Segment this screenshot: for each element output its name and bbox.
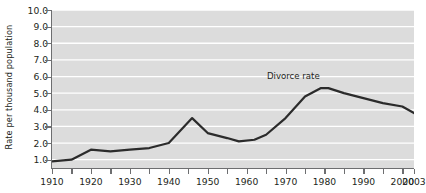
x-axis-minor-tick-mark — [188, 169, 189, 174]
series-line-divorce-rate — [52, 88, 414, 161]
y-axis-tick-label: 8.0 — [14, 39, 48, 48]
series-line-svg — [52, 10, 414, 168]
y-axis-tick-mark — [45, 126, 51, 127]
x-axis-tick-label: 1980 — [313, 177, 336, 187]
y-axis-tick-label: 6.0 — [14, 72, 48, 81]
x-axis-tick-mark — [52, 169, 53, 174]
x-axis-minor-tick-mark — [344, 169, 345, 174]
y-axis-tick-mark — [45, 77, 51, 78]
y-axis-tick-label: 7.0 — [14, 55, 48, 64]
x-axis-tick-mark — [208, 169, 209, 174]
x-axis-tick-mark — [286, 169, 287, 174]
y-axis-tick-label: 10.0 — [14, 6, 48, 15]
x-axis-tick-label: 2003 — [402, 177, 425, 187]
x-axis-tick-label: 1970 — [274, 177, 297, 187]
x-axis-minor-tick-mark — [149, 169, 150, 174]
x-axis-minor-tick-mark — [383, 169, 384, 174]
y-axis-tick-label: 2.0 — [14, 139, 48, 148]
x-axis-tick-label: 1930 — [118, 177, 141, 187]
x-axis-tick-label: 1940 — [157, 177, 180, 187]
y-axis-tick-mark — [45, 143, 51, 144]
plot-area — [52, 10, 414, 168]
x-axis-tick-mark — [402, 169, 403, 174]
x-axis-tick-mark — [169, 169, 170, 174]
x-axis-tick-label: 1920 — [79, 177, 102, 187]
x-axis-tick-label: 1950 — [196, 177, 219, 187]
y-axis-tick-label: 1.0 — [14, 155, 48, 164]
y-axis-tick-label: 3.0 — [14, 122, 48, 131]
x-axis-tick-mark — [91, 169, 92, 174]
x-axis-minor-tick-mark — [110, 169, 111, 174]
y-axis-tick-label: 5.0 — [14, 89, 48, 98]
x-axis-tick-mark — [363, 169, 364, 174]
y-axis-tick-mark — [45, 10, 51, 11]
x-axis-minor-tick-mark — [227, 169, 228, 174]
y-axis-tick-mark — [45, 27, 51, 28]
series-annotation-divorce-rate: Divorce rate — [267, 71, 320, 81]
x-axis-tick-label: 1960 — [235, 177, 258, 187]
y-axis-tick-mark — [45, 160, 51, 161]
y-axis-tick-label-group: 1.02.03.04.05.06.07.08.09.010.0 — [14, 0, 48, 193]
x-axis-spine — [51, 168, 414, 169]
y-axis-tick-label: 9.0 — [14, 22, 48, 31]
x-axis-tick-label: 1990 — [352, 177, 375, 187]
x-axis-minor-tick-mark — [71, 169, 72, 174]
y-axis-tick-mark — [45, 93, 51, 94]
x-axis-tick-label: 1910 — [40, 177, 63, 187]
x-axis-minor-tick-mark — [305, 169, 306, 174]
y-axis-tick-mark — [45, 43, 51, 44]
x-axis-tick-mark — [130, 169, 131, 174]
y-axis-tick-mark — [45, 110, 51, 111]
x-axis-tick-mark — [324, 169, 325, 174]
y-axis-tick-mark — [45, 60, 51, 61]
x-axis-tick-mark — [247, 169, 248, 174]
x-axis-minor-tick-mark — [266, 169, 267, 174]
x-axis-tick-mark — [414, 169, 415, 174]
y-axis-tick-label: 4.0 — [14, 105, 48, 114]
